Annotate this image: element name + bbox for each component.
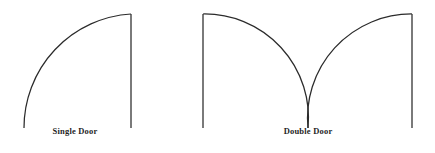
single-door-label: Single Door [53, 127, 98, 136]
double-door-group [203, 14, 412, 128]
double-door-right-swing-arc [308, 14, 412, 128]
double-door-left-swing-arc [203, 14, 308, 128]
double-door-label: Double Door [284, 127, 333, 136]
single-door-group [24, 14, 131, 128]
single-door-swing-arc [24, 14, 131, 128]
door-diagram-figure: Single Door Double Door [0, 0, 435, 153]
